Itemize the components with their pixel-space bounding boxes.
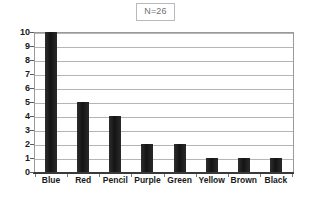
- y-axis-tick-mark: [30, 102, 34, 103]
- y-axis-tick-label: 3: [10, 126, 30, 135]
- x-axis-tick-label: Black: [265, 176, 288, 185]
- x-axis-tick-mark: [292, 174, 293, 177]
- bar: [174, 144, 186, 172]
- x-axis-tick-label: Yellow: [198, 176, 224, 185]
- bar: [270, 158, 282, 172]
- bar-chart: N=26 012345678910 BlueRedPencilPurpleGre…: [0, 0, 311, 208]
- bar: [77, 102, 89, 172]
- bar: [238, 158, 250, 172]
- y-axis-tick-label: 0: [10, 168, 30, 177]
- chart-title: N=26: [136, 3, 175, 21]
- y-axis-tick-mark: [30, 158, 34, 159]
- bar: [109, 116, 121, 172]
- x-axis-tick-label: Blue: [42, 176, 60, 185]
- y-axis-tick-label: 9: [10, 42, 30, 51]
- bars-layer: [35, 32, 292, 172]
- x-axis-tick-label: Brown: [231, 176, 257, 185]
- y-axis-tick-label: 1: [10, 154, 30, 163]
- y-axis-tick-mark: [30, 130, 34, 131]
- y-axis-tick-label: 7: [10, 70, 30, 79]
- y-axis-labels: 012345678910: [8, 0, 30, 208]
- y-axis-tick-mark: [30, 32, 34, 33]
- bar: [206, 158, 218, 172]
- y-axis-tick-mark: [30, 74, 34, 75]
- x-axis-tick-label: Red: [75, 176, 91, 185]
- y-axis-tick-label: 10: [10, 28, 30, 37]
- x-axis-tick-label: Pencil: [103, 176, 128, 185]
- y-axis-tick-mark: [30, 88, 34, 89]
- y-axis-tick-mark: [30, 116, 34, 117]
- y-axis-tick-mark: [30, 144, 34, 145]
- x-axis-tick-label: Purple: [134, 176, 160, 185]
- y-axis-tick-mark: [30, 172, 34, 173]
- x-axis-labels: BlueRedPencilPurpleGreenYellowBrownBlack: [35, 176, 292, 192]
- x-axis-tick-label: Green: [167, 176, 192, 185]
- y-axis-tick-label: 5: [10, 98, 30, 107]
- y-axis-tick-mark: [30, 60, 34, 61]
- bar: [141, 144, 153, 172]
- y-axis-tick-label: 6: [10, 84, 30, 93]
- y-axis-tick-mark: [30, 46, 34, 47]
- y-axis-tick-label: 4: [10, 112, 30, 121]
- bar: [45, 32, 57, 172]
- y-axis-tick-label: 2: [10, 140, 30, 149]
- chart-title-container: N=26: [0, 3, 311, 21]
- y-axis-tick-label: 8: [10, 56, 30, 65]
